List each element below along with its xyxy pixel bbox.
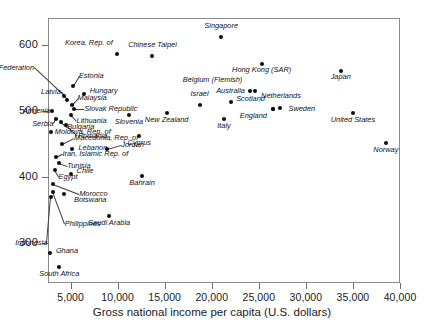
point-label: Netherlands xyxy=(261,92,301,100)
point-label: England xyxy=(240,112,267,120)
point-label: Latvia xyxy=(41,88,61,96)
y-tick-mark xyxy=(42,177,49,178)
point-label: New Zealand xyxy=(145,116,189,124)
point-label: South Africa xyxy=(39,270,79,278)
data-point xyxy=(54,117,58,121)
data-point xyxy=(53,168,57,172)
point-label: Chile xyxy=(77,167,94,175)
point-label: Norway xyxy=(373,146,398,154)
point-label: Armenia xyxy=(23,107,51,115)
scatter-chart: 300400500600 5,00010,00015,00020,00025,0… xyxy=(0,0,424,326)
x-tick-mark xyxy=(71,283,72,289)
point-label: United States xyxy=(331,116,375,124)
y-tick-label: 600 xyxy=(0,38,38,50)
data-point xyxy=(253,89,257,93)
y-tick-mark xyxy=(42,45,49,46)
point-label: Belgium (Flemish) xyxy=(183,76,243,84)
x-tick-mark xyxy=(259,283,260,289)
point-label: Slovenia xyxy=(115,118,143,126)
x-tick-mark xyxy=(165,283,166,289)
point-label: Hong Kong (SAR) xyxy=(232,66,291,74)
data-point xyxy=(49,130,53,134)
x-tick-label: 40,000 xyxy=(370,291,424,303)
point-label: Malaysia xyxy=(78,94,107,102)
data-point xyxy=(71,84,75,88)
point-label: Italy xyxy=(217,122,231,130)
point-label: Estonia xyxy=(79,72,104,80)
point-label: Slovak Republic xyxy=(84,105,137,113)
x-tick-mark xyxy=(306,283,307,289)
data-point xyxy=(69,113,73,117)
point-label: Scotland xyxy=(236,95,265,103)
data-point xyxy=(51,190,55,194)
point-label: Russian Federation xyxy=(0,64,34,72)
data-point xyxy=(69,172,73,176)
point-label: Korea, Rep. of xyxy=(65,39,113,47)
data-point xyxy=(219,35,223,39)
point-label: Ghana xyxy=(56,247,78,255)
data-point xyxy=(62,192,66,196)
point-label: Sweden xyxy=(288,105,315,113)
x-axis-title: Gross national income per capita (U.S. d… xyxy=(0,306,424,318)
point-label: Chinese Taipei xyxy=(128,41,177,49)
point-label: Singapore xyxy=(204,22,238,30)
point-label: Serbia xyxy=(32,120,53,128)
point-label: Saudi Arabia xyxy=(88,219,130,227)
data-point xyxy=(65,98,69,102)
point-label: Japan xyxy=(331,73,351,81)
x-tick-mark xyxy=(400,283,401,289)
data-point xyxy=(271,107,275,111)
point-label: Botswana xyxy=(74,196,106,204)
data-point xyxy=(50,109,54,113)
data-point xyxy=(198,103,202,107)
x-tick-mark xyxy=(353,283,354,289)
point-label: Israel xyxy=(190,90,208,98)
data-point xyxy=(60,142,64,146)
x-tick-mark xyxy=(118,283,119,289)
point-label: Cyprus xyxy=(128,139,151,147)
data-point xyxy=(229,100,233,104)
data-point xyxy=(51,182,55,186)
y-tick-label: 400 xyxy=(0,170,38,182)
x-tick-mark xyxy=(212,283,213,289)
point-label: Bahrain xyxy=(129,179,154,187)
point-label: Indonesia xyxy=(15,239,47,247)
point-label: Iran, Islamic Rep. of xyxy=(62,150,128,158)
